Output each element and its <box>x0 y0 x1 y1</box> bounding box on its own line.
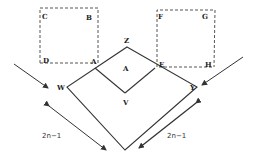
arrow-left-incoming <box>14 64 48 88</box>
lattice-diagram: C B D A F G E H Z A W V Y 2n−1 2n−1 <box>0 0 257 158</box>
label-g: G <box>202 13 208 20</box>
diagram-canvas <box>0 0 257 158</box>
dimension-arrow-left <box>49 106 106 150</box>
label-y: Y <box>190 84 195 91</box>
label-a: A <box>123 65 128 72</box>
label-v: V <box>123 99 128 106</box>
label-h: H <box>205 61 212 68</box>
label-c: C <box>42 13 48 20</box>
label-b: B <box>86 14 92 21</box>
label-e: E <box>159 61 164 68</box>
label-d: D <box>43 57 49 64</box>
label-w: W <box>57 84 65 91</box>
label-a1: A <box>91 58 96 65</box>
dimension-label-right: 2n−1 <box>167 133 186 140</box>
label-z: Z <box>124 37 129 44</box>
label-f: F <box>158 13 163 20</box>
dimension-arrow-right <box>139 103 196 148</box>
dimension-label-left: 2n−1 <box>42 133 61 140</box>
